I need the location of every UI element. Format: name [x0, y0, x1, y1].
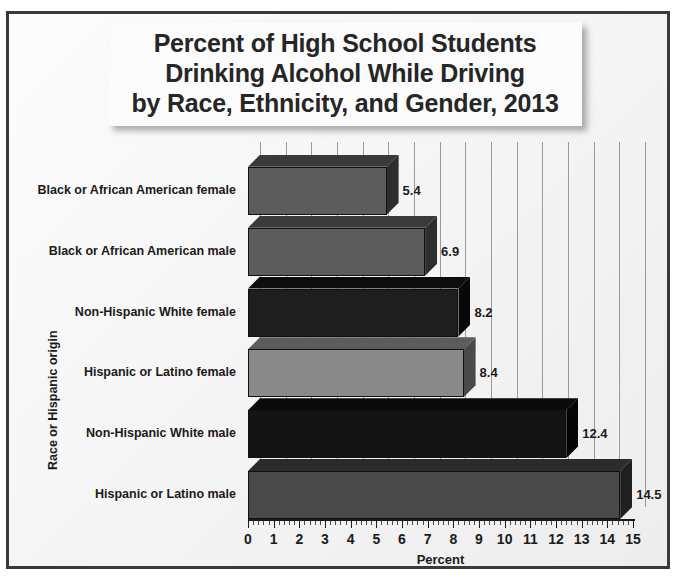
x-tick-minor — [592, 521, 593, 525]
x-tick-minor — [577, 521, 578, 525]
x-tick-minor — [294, 521, 295, 525]
bar-value-label: 8.4 — [480, 365, 498, 380]
x-tick-minor — [310, 521, 311, 525]
x-tick-minor — [469, 521, 470, 525]
bar-value-label: 8.2 — [474, 305, 492, 320]
x-tick-minor — [387, 521, 388, 525]
x-tick-minor — [279, 521, 280, 525]
x-tick-minor — [284, 521, 285, 525]
x-tick-major — [453, 521, 454, 528]
bar-front-face — [248, 167, 387, 215]
bar-front-face — [248, 289, 458, 337]
bar-front-face — [248, 471, 620, 519]
x-tick-major — [299, 521, 300, 528]
x-tick-minor — [253, 521, 254, 525]
x-tick-minor — [320, 521, 321, 525]
x-tick-minor — [628, 521, 629, 525]
y-axis-title: Race or Hispanic origin — [46, 330, 60, 470]
x-tick-minor — [356, 521, 357, 525]
x-tick-minor — [561, 521, 562, 525]
x-tick-minor — [494, 521, 495, 525]
bar-front-face — [248, 349, 464, 397]
x-tick-minor — [612, 521, 613, 525]
x-tick-minor — [489, 521, 490, 525]
bar-front-face — [248, 410, 566, 458]
category-label: Black or African American female — [6, 183, 236, 197]
x-tick-minor — [535, 521, 536, 525]
category-label: Black or African American male — [6, 244, 236, 258]
gridline — [645, 142, 646, 507]
x-tick-major — [402, 521, 403, 528]
category-label: Non-Hispanic White female — [6, 305, 236, 319]
x-tick-minor — [315, 521, 316, 525]
x-tick-minor — [346, 521, 347, 525]
bar-top-face — [248, 155, 399, 167]
x-tick-minor — [571, 521, 572, 525]
category-label: Hispanic or Latino male — [6, 487, 236, 501]
x-tick-minor — [361, 521, 362, 525]
x-tick-minor — [258, 521, 259, 525]
x-tick-minor — [510, 521, 511, 525]
plot-area: 5.46.98.28.412.414.5 Black or African Am… — [0, 0, 678, 578]
x-tick-major — [325, 521, 326, 528]
x-tick-label: 15 — [618, 531, 648, 547]
bar-front-face — [248, 228, 425, 276]
bar-value-label: 14.5 — [636, 487, 661, 502]
x-tick-major — [248, 521, 249, 528]
bar-4[interactable] — [248, 337, 476, 397]
x-tick-minor — [448, 521, 449, 525]
bar-top-face — [248, 459, 632, 471]
x-tick-minor — [515, 521, 516, 525]
x-tick-major — [582, 521, 583, 528]
bar-5[interactable] — [248, 398, 578, 458]
x-tick-minor — [366, 521, 367, 525]
x-tick-minor — [464, 521, 465, 525]
x-tick-major — [351, 521, 352, 528]
bar-value-label: 12.4 — [582, 426, 607, 441]
x-tick-minor — [392, 521, 393, 525]
x-tick-minor — [458, 521, 459, 525]
x-tick-minor — [423, 521, 424, 525]
x-tick-major — [530, 521, 531, 528]
bar-2[interactable] — [248, 216, 437, 276]
bar-top-face — [248, 337, 476, 349]
x-tick-minor — [443, 521, 444, 525]
x-tick-major — [633, 521, 634, 528]
bar-value-label: 6.9 — [441, 244, 459, 259]
x-tick-major — [428, 521, 429, 528]
x-tick-minor — [263, 521, 264, 525]
bar-1[interactable] — [248, 155, 399, 215]
chart-canvas: Percent of High School Students Drinking… — [0, 0, 678, 578]
bar-3[interactable] — [248, 277, 470, 337]
x-tick-minor — [500, 521, 501, 525]
category-label: Non-Hispanic White male — [6, 426, 236, 440]
x-tick-minor — [520, 521, 521, 525]
x-tick-major — [479, 521, 480, 528]
x-tick-minor — [417, 521, 418, 525]
x-tick-major — [274, 521, 275, 528]
x-tick-minor — [618, 521, 619, 525]
x-tick-minor — [371, 521, 372, 525]
x-axis-title: Percent — [248, 552, 633, 567]
bar-top-face — [248, 398, 578, 410]
bar-6[interactable] — [248, 459, 632, 519]
x-tick-minor — [269, 521, 270, 525]
x-tick-minor — [330, 521, 331, 525]
x-tick-major — [607, 521, 608, 528]
gridline — [594, 142, 595, 507]
x-tick-minor — [484, 521, 485, 525]
x-tick-minor — [474, 521, 475, 525]
x-tick-minor — [438, 521, 439, 525]
x-tick-minor — [587, 521, 588, 525]
x-axis-baseline — [248, 519, 635, 521]
x-tick-minor — [566, 521, 567, 525]
x-tick-minor — [335, 521, 336, 525]
x-tick-minor — [597, 521, 598, 525]
bar-value-label: 5.4 — [403, 183, 421, 198]
bar-top-face — [248, 277, 470, 289]
x-tick-minor — [412, 521, 413, 525]
x-tick-minor — [623, 521, 624, 525]
x-tick-minor — [546, 521, 547, 525]
bar-top-face — [248, 216, 437, 228]
x-tick-major — [376, 521, 377, 528]
